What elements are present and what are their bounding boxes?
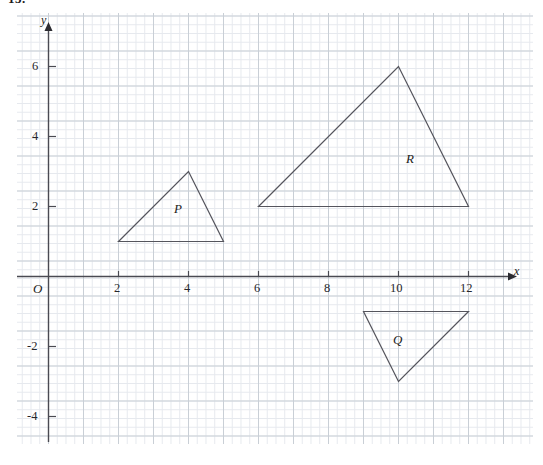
x-tick-label-12: 12 bbox=[460, 281, 473, 296]
x-tick-label-10: 10 bbox=[390, 281, 403, 296]
y-tick-label-2: 2 bbox=[32, 199, 38, 214]
shape-label-r: R bbox=[406, 151, 414, 167]
shape-label-p: P bbox=[174, 201, 182, 217]
question-number: 13. bbox=[8, 0, 26, 7]
y-tick-label-minus2: -2 bbox=[27, 339, 37, 354]
x-tick-label-8: 8 bbox=[324, 281, 330, 296]
y-axis-label: y bbox=[41, 13, 46, 28]
x-axis-label: x bbox=[514, 264, 519, 279]
x-tick-label-6: 6 bbox=[254, 281, 260, 296]
shape-label-q: Q bbox=[393, 332, 402, 348]
x-tick-label-4: 4 bbox=[184, 281, 190, 296]
y-tick-label-4: 4 bbox=[32, 129, 38, 144]
graph-paper-grid bbox=[17, 13, 533, 444]
y-tick-label-6: 6 bbox=[32, 59, 38, 74]
y-tick-label-minus4: -4 bbox=[27, 409, 37, 424]
x-tick-label-2: 2 bbox=[114, 281, 120, 296]
origin-label: O bbox=[33, 281, 42, 297]
